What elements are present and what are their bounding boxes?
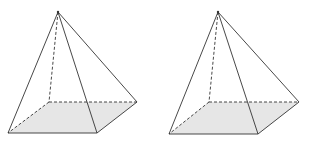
right-pyramid — [169, 11, 299, 134]
pyramids-diagram — [0, 0, 313, 142]
hidden-edge — [209, 12, 218, 102]
apex-point — [57, 11, 59, 13]
left-pyramid — [8, 11, 137, 133]
hidden-edge — [49, 12, 58, 102]
edge — [218, 12, 299, 102]
edge — [58, 12, 137, 102]
apex-point — [217, 11, 219, 13]
